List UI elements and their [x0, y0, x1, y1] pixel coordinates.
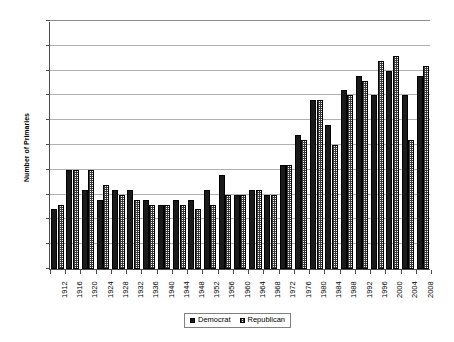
legend-label-republican: Republican — [248, 316, 286, 324]
x-tick-mark — [279, 270, 280, 274]
x-tick-mark — [157, 270, 158, 274]
legend-swatch-democrat — [190, 318, 195, 323]
bar-republican — [286, 165, 292, 269]
x-tick-mark — [416, 270, 417, 274]
x-tick-label: 1976 — [305, 281, 313, 298]
x-tick-mark — [385, 270, 386, 274]
bar-group — [203, 22, 218, 269]
bar-republican — [180, 205, 186, 269]
bar-group — [51, 22, 66, 269]
plot-area: 05101520253035404550 1912191619201924192… — [49, 22, 430, 270]
bar-democrat — [402, 95, 408, 269]
x-tick-mark — [126, 270, 127, 274]
bar-democrat — [264, 195, 270, 269]
bar-republican — [210, 205, 216, 269]
x-tick-mark — [233, 270, 234, 274]
x-tick-mark — [431, 270, 432, 274]
x-tick-mark — [218, 270, 219, 274]
bar-group — [96, 22, 111, 269]
x-tick-label: 1920 — [91, 281, 99, 298]
x-tick-mark — [401, 270, 402, 274]
x-tick-mark — [324, 270, 325, 274]
bar-democrat — [234, 195, 240, 269]
x-tick-mark — [202, 270, 203, 274]
bar-democrat — [143, 200, 149, 269]
bar-democrat — [97, 200, 103, 269]
bar-democrat — [280, 165, 286, 269]
legend-item-republican: Republican — [240, 316, 286, 324]
bar-democrat — [325, 125, 331, 269]
bar-group — [416, 22, 431, 269]
bar-democrat — [386, 71, 392, 269]
x-tick-mark — [141, 270, 142, 274]
x-tick-mark — [248, 270, 249, 274]
bar-group — [188, 22, 203, 269]
x-tick-label: 1972 — [289, 281, 297, 298]
bar-democrat — [204, 190, 210, 269]
bar-democrat — [127, 190, 133, 269]
y-axis-title: Number of Primaries — [23, 78, 30, 218]
x-tick-mark — [187, 270, 188, 274]
x-tick-label: 1968 — [274, 281, 282, 298]
bar-group — [279, 22, 294, 269]
bar-group — [233, 22, 248, 269]
bar-democrat — [173, 200, 179, 269]
bar-republican — [347, 95, 353, 269]
bar-group — [386, 22, 401, 269]
bar-democrat — [249, 190, 255, 269]
bar-group — [249, 22, 264, 269]
bar-republican — [225, 195, 231, 269]
bar-republican — [103, 185, 109, 269]
bar-democrat — [158, 205, 164, 269]
bar-group — [81, 22, 96, 269]
x-tick-label: 2000 — [396, 281, 404, 298]
bar-democrat — [82, 190, 88, 269]
bar-republican — [393, 56, 399, 269]
x-tick-mark — [50, 270, 51, 274]
bar-group — [173, 22, 188, 269]
x-tick-label: 1924 — [107, 281, 115, 298]
x-tick-mark — [309, 270, 310, 274]
x-tick-mark — [111, 270, 112, 274]
bar-republican — [408, 140, 414, 269]
gridline — [50, 20, 430, 21]
bar-group — [310, 22, 325, 269]
x-tick-mark — [294, 270, 295, 274]
bar-republican — [134, 200, 140, 269]
x-tick-mark — [80, 270, 81, 274]
bar-democrat — [112, 190, 118, 269]
x-tick-label: 1952 — [213, 281, 221, 298]
bar-republican — [88, 170, 94, 269]
bar-republican — [301, 140, 307, 269]
bar-democrat — [219, 175, 225, 269]
bar-series-container — [50, 22, 430, 269]
x-tick-label: 1916 — [76, 281, 84, 298]
bar-group — [355, 22, 370, 269]
bar-group — [340, 22, 355, 269]
x-tick-mark — [370, 270, 371, 274]
bar-group — [294, 22, 309, 269]
bar-republican — [256, 190, 262, 269]
bar-group — [325, 22, 340, 269]
x-tick-label: 1960 — [244, 281, 252, 298]
x-tick-label: 1988 — [350, 281, 358, 298]
bar-democrat — [66, 170, 72, 269]
bar-republican — [423, 66, 429, 269]
bar-group — [218, 22, 233, 269]
x-tick-label: 1956 — [228, 281, 236, 298]
x-tick-label: 2008 — [427, 281, 435, 298]
y-tick-mark — [46, 20, 50, 21]
x-tick-label: 1932 — [137, 281, 145, 298]
bar-republican — [195, 209, 201, 269]
x-tick-label: 1948 — [198, 281, 206, 298]
x-tick-label: 1936 — [152, 281, 160, 298]
bar-democrat — [51, 209, 57, 269]
x-tick-mark — [340, 270, 341, 274]
x-tick-label: 1984 — [335, 281, 343, 298]
bar-republican — [149, 205, 155, 269]
bar-republican — [240, 195, 246, 269]
bar-group — [112, 22, 127, 269]
x-tick-mark — [355, 270, 356, 274]
x-tick-label: 1944 — [183, 281, 191, 298]
bar-group — [401, 22, 416, 269]
